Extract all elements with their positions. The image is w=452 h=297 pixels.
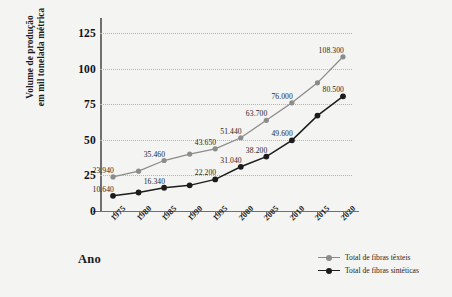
chart-legend: Total de fibras têxteisTotal de fibras s… — [318, 253, 419, 275]
legend-label: Total de fibras têxteis — [345, 253, 410, 262]
legend-item[interactable]: Total de fibras sintéticas — [318, 266, 419, 275]
data-point-label: 108.300 — [319, 46, 344, 55]
data-point — [340, 54, 345, 59]
legend-marker-icon — [318, 267, 340, 275]
data-point-label: 10.640 — [93, 185, 114, 194]
data-point-label: 51.440 — [220, 127, 241, 136]
legend-label: Total de fibras sintéticas — [345, 266, 419, 275]
y-tick-label: 25 — [56, 169, 96, 181]
data-point — [162, 158, 167, 163]
data-point — [315, 80, 320, 85]
data-point — [238, 135, 243, 140]
x-axis-title: Ano — [78, 252, 101, 267]
data-point — [110, 174, 115, 179]
data-point-label: 22.200 — [195, 168, 216, 177]
data-point-label: 38.200 — [246, 146, 267, 155]
y-tick-label: 100 — [56, 63, 96, 75]
data-point — [136, 190, 142, 196]
data-point-label: 49.600 — [271, 129, 292, 138]
data-point-label: 80.500 — [323, 85, 344, 94]
data-point — [289, 100, 294, 105]
data-point-label: 35.460 — [144, 150, 165, 159]
data-point — [187, 151, 192, 156]
y-tick-label: 75 — [56, 98, 96, 110]
data-point-label: 16.340 — [144, 177, 165, 186]
data-point — [264, 118, 269, 123]
y-tick-label: 125 — [56, 27, 96, 39]
data-point — [187, 182, 193, 188]
legend-marker-icon — [318, 254, 340, 262]
legend-item[interactable]: Total de fibras têxteis — [318, 253, 419, 262]
data-point-label: 31.040 — [220, 156, 241, 165]
y-tick-label: 50 — [56, 134, 96, 146]
data-point — [213, 146, 218, 151]
chart-container: Volume de produção em mil tonelada métri… — [0, 0, 452, 297]
data-point-label: 63.700 — [246, 109, 267, 118]
data-point — [315, 113, 321, 119]
data-point-label: 76.000 — [271, 92, 292, 101]
data-point-label: 43.650 — [195, 138, 216, 147]
y-tick-label: 0 — [56, 205, 96, 217]
data-point — [136, 169, 141, 174]
